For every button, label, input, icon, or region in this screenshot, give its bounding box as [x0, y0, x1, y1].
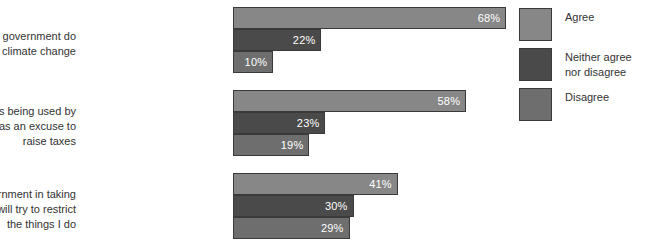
legend-label: Neither agree nor disagree	[565, 48, 632, 80]
bar-disagree[interactable]: 10%	[233, 51, 273, 73]
bar-value-label: 29%	[321, 222, 349, 234]
bar-value-label: 41%	[369, 178, 397, 190]
legend-swatch-neither	[519, 48, 552, 81]
bar-disagree[interactable]: 19%	[233, 134, 309, 156]
bar-value-label: 30%	[325, 200, 353, 212]
bar-agree[interactable]: 58%	[233, 90, 466, 112]
bar-value-label: 23%	[297, 117, 325, 129]
category-label: I am worried the government in taking ac…	[0, 187, 76, 232]
legend-item-neither-agree-nor-disagree[interactable]: Neither agree nor disagree	[519, 48, 632, 81]
bar-disagree[interactable]: 29%	[233, 217, 350, 239]
bar-agree[interactable]: 41%	[233, 173, 398, 195]
legend-item-agree[interactable]: Agree	[519, 8, 594, 41]
category-label: I want to see the government do more on …	[0, 29, 76, 59]
legend-label: Disagree	[565, 88, 609, 105]
chart-plot-area: I want to see the government do more on …	[0, 0, 510, 251]
bar-value-label: 19%	[281, 139, 309, 151]
bar-value-label: 22%	[293, 34, 321, 46]
bar-value-label: 68%	[478, 12, 506, 24]
bar-agree[interactable]: 68%	[233, 7, 506, 29]
bar-value-label: 10%	[245, 56, 273, 68]
chart-legend: Agree Neither agree nor disagree Disagre…	[519, 0, 662, 251]
bar-neither[interactable]: 22%	[233, 29, 321, 51]
bar-neither[interactable]: 23%	[233, 112, 325, 134]
legend-swatch-agree	[519, 8, 552, 41]
bar-neither[interactable]: 30%	[233, 195, 354, 217]
category-label: Climate change is being used by the gove…	[0, 104, 76, 149]
legend-item-disagree[interactable]: Disagree	[519, 88, 609, 121]
legend-label: Agree	[565, 8, 594, 25]
bar-value-label: 58%	[438, 95, 466, 107]
bar-chart: I want to see the government do more on …	[0, 0, 662, 251]
legend-swatch-disagree	[519, 88, 552, 121]
